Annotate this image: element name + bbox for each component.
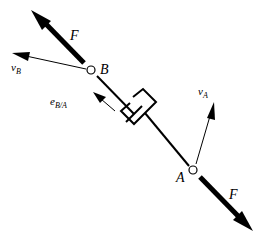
force-label-bottom: F: [229, 188, 238, 202]
point-label-B: B: [100, 63, 109, 77]
vB-subscript: B: [16, 67, 21, 76]
point-label-A-text: A: [176, 170, 185, 185]
damper-free-body-diagram: F B vB eB/A vA A F: [0, 0, 271, 243]
velocity-arrow-vA: [196, 102, 215, 164]
velocity-label-vA: vA: [198, 86, 208, 100]
joint-A: [189, 166, 197, 174]
diagram-canvas: [0, 0, 271, 243]
joint-B: [87, 66, 95, 74]
force-label-bottom-text: F: [229, 187, 238, 202]
point-label-A: A: [176, 171, 185, 185]
unit-vector-label-eBA: eB/A: [50, 96, 67, 110]
vA-subscript: A: [203, 91, 208, 100]
rod-B-side: [97, 76, 134, 114]
force-label-top: F: [70, 29, 79, 43]
unit-vector-arrow-eBA: [93, 92, 115, 111]
rod-A-side: [145, 113, 189, 166]
force-label-top-text: F: [70, 28, 79, 43]
eBA-subscript: B/A: [55, 101, 67, 110]
force-arrow-bottom: [200, 177, 253, 231]
point-label-B-text: B: [100, 62, 109, 77]
velocity-label-vB: vB: [11, 62, 21, 76]
